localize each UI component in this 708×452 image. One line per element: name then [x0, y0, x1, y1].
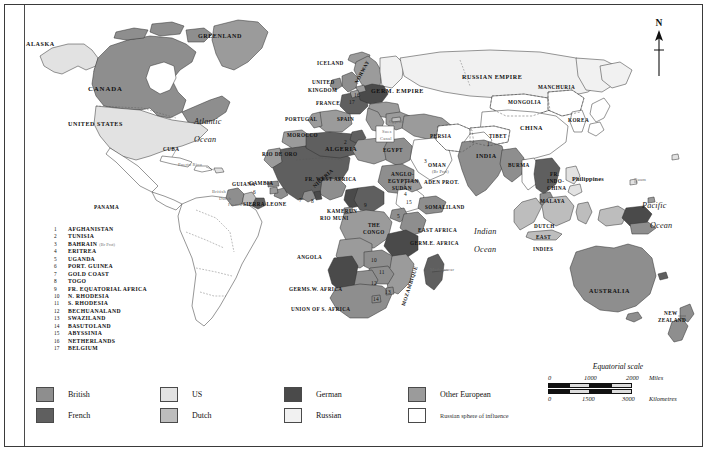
index-item-number: 14 [52, 323, 68, 329]
region-new-zealand-south [668, 318, 688, 342]
legend-label: British [68, 390, 90, 399]
index-item-name: TUNISIA [68, 233, 94, 239]
legend-swatch [160, 387, 178, 402]
region-hispaniola [194, 166, 212, 172]
region-australia [570, 244, 656, 312]
region-cuba [160, 156, 192, 167]
index-item-subtitle: (Br Prot) [97, 242, 115, 247]
index-item-name: NETHERLANDS [68, 338, 115, 344]
index-item: 2TUNISIA [52, 233, 202, 240]
legend-swatch [408, 387, 426, 402]
index-item-number: 8 [52, 278, 68, 284]
region-java [526, 230, 562, 240]
legend-column: Other EuropeanRussian sphere of influenc… [408, 384, 509, 426]
index-item-number: 4 [52, 248, 68, 254]
legend-swatch [36, 408, 54, 423]
scale-unit-km: Kilometres [649, 395, 677, 402]
index-item-number: 12 [52, 308, 68, 314]
index-item-number: 5 [52, 256, 68, 262]
scale-ticks-miles: 0 1000 2000 Miles [548, 374, 688, 382]
scale-ticks-kilometres: 0 1500 3000 Kilometres [548, 395, 688, 403]
region-port-guinea [270, 187, 278, 194]
region-union-of-s-africa [330, 284, 392, 318]
legend-label: Russian [316, 411, 341, 420]
legend-entry-german: German [284, 384, 342, 405]
scale-bar-kilometres [548, 389, 660, 394]
region-germ-east-africa [384, 230, 418, 258]
legend-column: GermanRussian [284, 384, 342, 426]
legend-swatch [284, 387, 302, 402]
region-hawaii [672, 154, 679, 160]
map-screenshot: Atlantic Ocean Indian Ocean Pacific Ocea… [0, 0, 708, 452]
legend-label: Dutch [192, 411, 212, 420]
legend-swatch [408, 408, 426, 423]
index-item: 12BECHUANALAND [52, 308, 202, 315]
region-gambia [268, 181, 279, 187]
region-japan-south [588, 122, 604, 136]
legend-entry-british: British [36, 384, 90, 405]
legend-swatch [160, 408, 178, 423]
map-index-list: 1AFGHANISTAN2TUNISIA3BAHRAIN(Br Prot)4ER… [52, 226, 202, 352]
index-item: 7GOLD COAST [52, 271, 202, 278]
region-alaska [40, 44, 98, 74]
region-india [458, 140, 506, 196]
index-item-number: 11 [52, 300, 68, 306]
scale-tick-miles-2: 2000 [626, 374, 639, 381]
legend-entry-russian-sphere-of-influence: Russian sphere of influence [408, 405, 509, 426]
region-korea [570, 110, 586, 132]
index-item: 6PORT. GUINEA [52, 263, 202, 270]
region-basutoland [372, 295, 381, 303]
index-item-number: 17 [52, 345, 68, 351]
region-central-america [152, 192, 182, 210]
index-item-name: PORT. GUINEA [68, 263, 113, 269]
region-japan [590, 98, 610, 122]
index-item-name: AFGHANISTAN [68, 226, 113, 232]
index-item-number: 15 [52, 330, 68, 336]
north-arrow: N [648, 18, 670, 82]
index-item-name: BAHRAIN(Br Prot) [68, 241, 115, 247]
region-ireland [330, 78, 342, 90]
north-label: N [648, 18, 670, 28]
region-burma [500, 148, 524, 182]
index-item-name: N. RHODESIA [68, 293, 109, 299]
index-item-name: S. RHODESIA [68, 300, 108, 306]
region-philippines-1 [566, 166, 580, 184]
index-item: 14BASUTOLAND [52, 323, 202, 330]
region-fr-indochina [534, 158, 560, 194]
region-arctic-islands-3 [186, 28, 212, 42]
index-item: 15ABYSSINIA [52, 330, 202, 337]
index-item-name: SWAZILAND [68, 315, 106, 321]
index-item-number: 16 [52, 338, 68, 344]
legend-swatch [36, 387, 54, 402]
north-arrow-icon [648, 28, 670, 78]
index-item-name: ABYSSINIA [68, 330, 102, 336]
legend-label: US [192, 390, 202, 399]
leader-cuba [172, 150, 176, 157]
index-item-number: 1 [52, 226, 68, 232]
legend-label: French [68, 411, 90, 420]
index-item-number: 10 [52, 293, 68, 299]
index-item-number: 7 [52, 271, 68, 277]
index-item: 16NETHERLANDS [52, 338, 202, 345]
index-item-name: ERITREA [68, 248, 96, 254]
region-swaziland [386, 287, 394, 295]
legend-swatch [284, 408, 302, 423]
index-item: 11S. RHODESIA [52, 300, 202, 307]
index-item: 4ERITREA [52, 248, 202, 255]
region-canada-east [182, 96, 230, 124]
legend-column: BritishFrench [36, 384, 90, 426]
legend-entry-russian: Russian [284, 405, 342, 426]
region-canada [92, 36, 196, 118]
index-item: 10N. RHODESIA [52, 293, 202, 300]
index-item-name: FR. EQUATORIAL AFRICA [68, 286, 147, 292]
legend-label: German [316, 390, 342, 399]
region-madagascar [424, 254, 444, 290]
legend-entry-dutch: Dutch [160, 405, 212, 426]
feature-suez-canal-box [376, 126, 394, 142]
legend-column: USDutch [160, 384, 212, 426]
scale-title: Equatorial scale [548, 362, 688, 371]
map-scale: Equatorial scale 0 1000 2000 Miles 0 150… [548, 362, 688, 403]
region-new-caledonia [658, 272, 668, 280]
region-arctic-islands-2 [150, 22, 184, 36]
scale-unit-miles: Miles [649, 374, 663, 381]
